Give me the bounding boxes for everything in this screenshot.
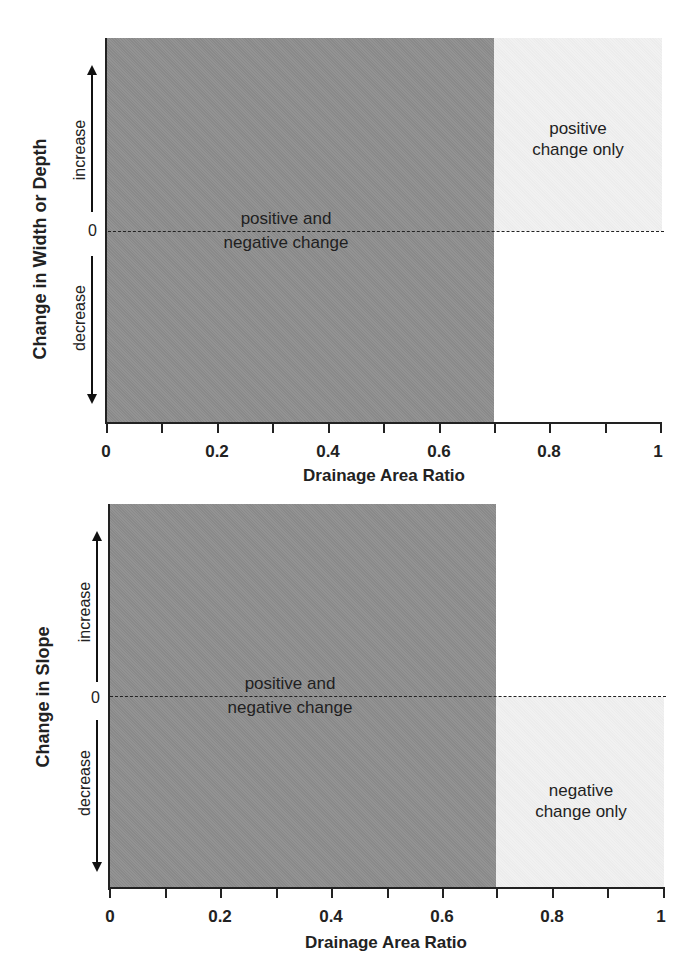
mixed-change-label: positive and negative change bbox=[228, 673, 353, 718]
mixed-change-label-line2: negative change bbox=[228, 697, 353, 718]
x-tick bbox=[276, 888, 278, 898]
x-tick-label: 0.8 bbox=[540, 907, 564, 927]
arrow-down-icon bbox=[92, 862, 102, 872]
zero-reference-line bbox=[110, 696, 666, 697]
x-tick bbox=[220, 888, 222, 898]
x-axis-title: Drainage Area Ratio bbox=[305, 933, 467, 953]
x-tick bbox=[387, 888, 389, 898]
decrease-label: decrease bbox=[76, 750, 94, 816]
x-tick bbox=[552, 888, 554, 898]
x-tick-label: 0.6 bbox=[430, 907, 454, 927]
x-tick-label: 0.2 bbox=[208, 907, 232, 927]
x-tick bbox=[331, 888, 333, 898]
y-axis bbox=[108, 504, 110, 890]
increase-label: increase bbox=[76, 582, 94, 642]
negative-only-label-line2: change only bbox=[535, 801, 627, 822]
x-tick bbox=[165, 888, 167, 898]
mixed-change-label-line1: positive and bbox=[228, 673, 353, 694]
increase-arrow-shaft bbox=[96, 538, 98, 682]
y-zero-label: 0 bbox=[91, 689, 100, 707]
x-tick-label: 0 bbox=[105, 907, 114, 927]
x-tick-label: 1 bbox=[656, 907, 665, 927]
negative-only-label-line1: negative bbox=[535, 780, 627, 801]
decrease-arrow-shaft bbox=[96, 720, 98, 864]
x-tick bbox=[496, 888, 498, 898]
x-tick bbox=[663, 888, 665, 898]
bottom-panel-slope: 0 0 0.2 0.4 0.6 0.8 1 Drainage Area Rati… bbox=[0, 0, 696, 975]
negative-only-label: negative change only bbox=[535, 780, 627, 822]
x-tick bbox=[442, 888, 444, 898]
x-tick bbox=[607, 888, 609, 898]
x-tick-label: 0.4 bbox=[319, 907, 343, 927]
y-axis-title: Change in Slope bbox=[33, 626, 54, 767]
x-tick bbox=[109, 888, 111, 898]
